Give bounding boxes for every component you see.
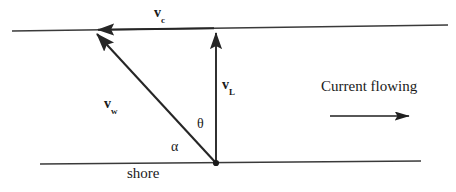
vc-label-base: v — [154, 5, 161, 20]
vc-label-subscript: c — [161, 15, 165, 25]
vc-label: vc — [154, 6, 165, 23]
top-bank-line — [12, 25, 448, 31]
vc-vector-arrow — [98, 28, 214, 30]
vector-diagram: vc vw vL θ α shore Current flowing — [0, 0, 456, 192]
vw-label-subscript: w — [111, 106, 118, 116]
origin-vertex-dot — [213, 160, 219, 166]
vl-label-subscript: L — [229, 87, 235, 97]
diagram-canvas — [0, 0, 456, 192]
current-flowing-label: Current flowing — [321, 79, 417, 94]
vl-label-base: v — [222, 77, 229, 92]
theta-angle-label: θ — [197, 117, 204, 131]
vw-label: vw — [104, 97, 118, 114]
vl-label: vL — [222, 78, 235, 95]
shore-label: shore — [127, 166, 160, 181]
vw-label-base: v — [104, 96, 111, 111]
bottom-bank-line — [40, 161, 421, 164]
alpha-angle-label: α — [171, 140, 178, 154]
